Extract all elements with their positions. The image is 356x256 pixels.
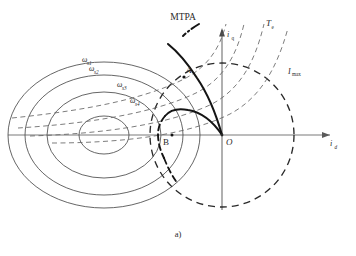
marker-point-a: [182, 75, 185, 78]
label-imax: I: [287, 67, 291, 76]
label-point-a: A: [185, 65, 192, 75]
figure-background: [0, 0, 356, 256]
label-mtpa: MTPA: [170, 11, 196, 22]
label-id-axis-sub: d: [335, 144, 338, 150]
figure-caption: a): [175, 229, 182, 239]
marker-point-b: [171, 134, 174, 137]
label-omega-s4-sub: s4: [135, 101, 140, 107]
current-plane-diagram: MTPA i q i d T e I max A B O ω s1 ω s2 ω…: [0, 0, 356, 256]
label-omega-s2-sub: s2: [94, 69, 99, 75]
label-imax-sub: max: [292, 71, 301, 77]
label-point-b: B: [163, 137, 169, 147]
label-iq-axis-sub: q: [232, 35, 235, 41]
label-origin: O: [226, 137, 233, 147]
figure-container: MTPA i q i d T e I max A B O ω s1 ω s2 ω…: [0, 0, 356, 256]
marker-origin: [221, 134, 224, 137]
label-omega-s3-sub: s3: [122, 85, 127, 91]
